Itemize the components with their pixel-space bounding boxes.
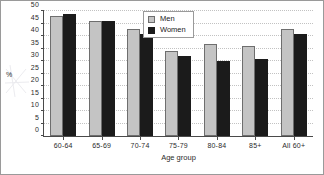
x-tick-label: 65-69 (92, 142, 111, 149)
y-tick-label: 40 (31, 26, 44, 33)
legend-label-women: Women (160, 26, 186, 34)
bar-women[interactable] (217, 61, 230, 136)
legend-item-women[interactable]: Women (148, 26, 186, 34)
x-tick-label: All 60+ (282, 142, 305, 149)
bar-group: 85+ (236, 11, 274, 136)
bar-women[interactable] (255, 59, 268, 137)
y-tick-label: 5 (35, 113, 44, 120)
bar-men[interactable] (204, 44, 217, 137)
scribble-artifact (4, 63, 30, 99)
bar-women[interactable] (102, 21, 115, 136)
x-tick-label: 85+ (249, 142, 261, 149)
x-tick-label: 60-64 (54, 142, 73, 149)
bar-men[interactable] (50, 16, 63, 136)
x-tick-mark (255, 137, 256, 140)
bar-women[interactable] (178, 56, 191, 136)
y-tick-label: 10 (31, 101, 44, 108)
bar-group: All 60+ (275, 11, 313, 136)
bar-group: 60-64 (44, 11, 82, 136)
x-axis-label: Age group (44, 154, 313, 162)
bar-men[interactable] (127, 29, 140, 137)
bar-group: 65-69 (82, 11, 120, 136)
y-tick-label: 20 (31, 76, 44, 83)
y-tick-label: 0 (35, 126, 44, 133)
x-tick-label: 80-84 (207, 142, 226, 149)
bar-men[interactable] (165, 51, 178, 136)
y-tick-label: 15 (31, 88, 44, 95)
bar-men[interactable] (89, 21, 102, 136)
legend-label-men: Men (160, 15, 175, 23)
chart-figure: % 05101520253035404550 60-6465-6970-7475… (0, 0, 324, 175)
bar-women[interactable] (294, 34, 307, 137)
y-tick-label: 25 (31, 63, 44, 70)
bar-women[interactable] (140, 34, 153, 137)
legend-swatch-women (148, 27, 155, 34)
x-tick-mark (63, 137, 64, 140)
chart-legend: Men Women (143, 11, 194, 38)
x-tick-label: 70-74 (131, 142, 150, 149)
legend-swatch-men (148, 16, 155, 23)
x-tick-mark (294, 137, 295, 140)
x-tick-mark (102, 137, 103, 140)
x-tick-label: 75-79 (169, 142, 188, 149)
x-tick-mark (140, 137, 141, 140)
bar-women[interactable] (63, 14, 76, 137)
bar-men[interactable] (242, 46, 255, 136)
bar-group: 80-84 (198, 11, 236, 136)
x-tick-mark (217, 137, 218, 140)
y-tick-label: 45 (31, 13, 44, 20)
y-axis-label: % (6, 70, 12, 77)
y-tick-label: 30 (31, 51, 44, 58)
y-tick-label: 35 (31, 38, 44, 45)
legend-item-men[interactable]: Men (148, 15, 186, 23)
x-tick-mark (178, 137, 179, 140)
bar-men[interactable] (281, 29, 294, 137)
y-tick-label: 50 (31, 1, 44, 8)
